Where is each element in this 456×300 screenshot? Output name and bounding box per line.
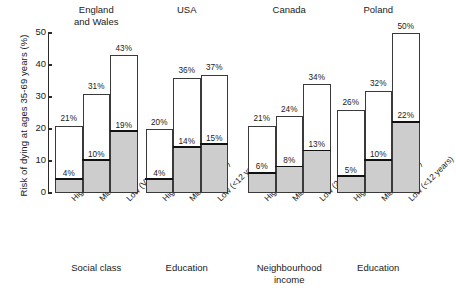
group-axis-caption-line: Education xyxy=(321,262,436,274)
bar[interactable]: 37%15% xyxy=(201,75,229,193)
bar[interactable]: 50%22% xyxy=(392,33,420,193)
bar-inner-line xyxy=(173,146,201,148)
bar[interactable]: 32%10% xyxy=(365,91,393,193)
bar-inner-fill xyxy=(56,179,82,192)
bar-inner-line xyxy=(392,121,420,123)
bar-inner-fill xyxy=(366,160,392,192)
bar[interactable]: 21%4% xyxy=(55,126,83,193)
bar-total-label: 43% xyxy=(101,44,147,53)
bar-inner-fill xyxy=(304,150,330,192)
group-title-line: Canada xyxy=(248,4,331,16)
bar-inner-fill xyxy=(147,179,173,192)
bar-inner-fill xyxy=(84,160,110,192)
group-title-line: England xyxy=(55,4,138,16)
bar-total-label: 37% xyxy=(192,63,238,72)
bar-inner-label: 13% xyxy=(294,140,340,149)
bar-inner-label: 22% xyxy=(383,111,429,120)
bar-total-label: 34% xyxy=(294,73,340,82)
bar-group-canada: CanadaHigh (20%)Mid (60%)Low (20%)21%6%2… xyxy=(248,0,331,300)
bar-inner-line xyxy=(82,159,110,161)
bar-inner-line xyxy=(248,172,276,174)
group-axis-caption-line: Education xyxy=(130,262,245,274)
group-title-line: Poland xyxy=(337,4,420,16)
bar-group-poland: PolandHigh (>12 years)Mid (12 years)Low … xyxy=(337,0,420,300)
bar[interactable]: 34%13% xyxy=(303,84,331,193)
bar-inner-line xyxy=(275,166,303,168)
group-title-line: USA xyxy=(146,4,229,16)
bar-inner-fill xyxy=(277,166,303,192)
group-title: Englandand Wales xyxy=(55,4,138,27)
bar-inner-label: 15% xyxy=(192,134,238,143)
bar-inner-line xyxy=(337,175,365,177)
bar-inner-line xyxy=(303,150,331,152)
bar[interactable]: 24%8% xyxy=(276,116,304,193)
bar-inner-fill xyxy=(393,122,419,192)
bar-group-england-and-wales: Englandand WalesHigh (I/II)Mid (III/IV)L… xyxy=(55,0,138,300)
bar-inner-line xyxy=(55,178,83,180)
bar-inner-fill xyxy=(202,144,228,192)
group-title: Poland xyxy=(337,4,420,16)
group-title: Canada xyxy=(248,4,331,16)
bar-inner-fill xyxy=(111,131,137,192)
bar[interactable]: 31%10% xyxy=(83,94,111,193)
bar-group-usa: USAHigh (>12 years)Mid (12 years)Low (<1… xyxy=(146,0,229,300)
bar-inner-line xyxy=(110,130,138,132)
group-axis-caption: Education xyxy=(130,262,245,274)
bar-inner-line xyxy=(364,159,392,161)
bar-inner-fill xyxy=(174,147,200,192)
group-axis-caption-line: income xyxy=(232,274,347,286)
bar-inner-fill xyxy=(249,173,275,192)
group-title-line: and Wales xyxy=(55,16,138,28)
bar[interactable]: 43%19% xyxy=(110,55,138,193)
bar-inner-fill xyxy=(338,176,364,192)
group-title: USA xyxy=(146,4,229,16)
bar-total-label: 50% xyxy=(383,22,429,31)
bar-inner-line xyxy=(200,143,228,145)
group-axis-caption: Education xyxy=(321,262,436,274)
bar-inner-line xyxy=(145,178,173,180)
